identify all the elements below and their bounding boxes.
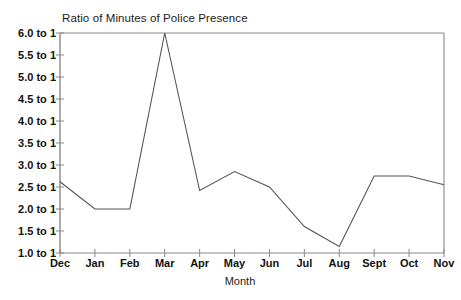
x-axis-tick-label: May	[224, 257, 245, 269]
x-axis-tick-label: Jun	[260, 257, 280, 269]
x-axis-tick-label: Nov	[434, 257, 455, 269]
x-axis-tick-label: Jul	[296, 257, 312, 269]
x-axis-tick-label: Oct	[400, 257, 418, 269]
x-axis-title: Month	[225, 275, 256, 287]
x-axis-tick-label: Mar	[155, 257, 175, 269]
x-axis-tick-label: Jan	[85, 257, 104, 269]
x-axis-tick-label: Apr	[190, 257, 209, 269]
x-axis-tick-label: Sept	[362, 257, 386, 269]
x-axis-tick-label: Aug	[329, 257, 350, 269]
police-presence-line-chart: Ratio of Minutes of Police Presence 1.0 …	[0, 0, 461, 300]
plot-area	[0, 0, 461, 300]
x-axis-tick-label: Feb	[120, 257, 140, 269]
x-axis-tick-label: Dec	[50, 257, 70, 269]
data-series-line	[60, 33, 444, 246]
